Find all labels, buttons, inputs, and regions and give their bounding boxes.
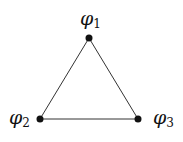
- node-3-label: φ3: [153, 108, 174, 129]
- node-1: [86, 35, 93, 42]
- node-2: [37, 116, 44, 123]
- edge-1-3: [89, 38, 138, 119]
- node-2-label: φ2: [9, 108, 30, 129]
- node-3: [135, 116, 142, 123]
- node-1-label: φ1: [80, 9, 101, 30]
- edge-1-2: [40, 38, 89, 119]
- triangle-graph-diagram: φ1 φ2 φ3: [0, 0, 183, 142]
